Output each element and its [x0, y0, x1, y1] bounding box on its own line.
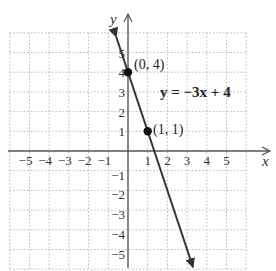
- y-tick-label: 3: [119, 85, 126, 100]
- x-tick-label: −5: [19, 153, 33, 168]
- y-tick-label: −3: [111, 207, 125, 222]
- y-tick-label: −1: [111, 168, 125, 183]
- x-tick-labels: −5−4−3−2−112345: [19, 153, 230, 168]
- x-tick-label: −4: [38, 153, 52, 168]
- point-label-1-1: (1, 1): [153, 122, 184, 138]
- y-axis-label: y: [108, 11, 117, 27]
- y-tick-label: −2: [111, 187, 125, 202]
- x-tick-label: 4: [204, 153, 211, 168]
- x-tick-label: −1: [97, 153, 111, 168]
- point-label-0-4: (0, 4): [134, 57, 165, 73]
- coordinate-plane: x y −5−4−3−2−112345 54321−1−2−3−4−5 (0, …: [0, 0, 276, 271]
- y-tick-labels: 54321−1−2−3−4−5: [111, 46, 125, 262]
- x-tick-label: 5: [223, 153, 230, 168]
- y-tick-label: 2: [119, 105, 126, 120]
- x-tick-label: 1: [144, 153, 151, 168]
- point-0-4: [124, 68, 132, 76]
- x-axis-label: x: [261, 153, 269, 169]
- y-tick-label: −4: [111, 227, 125, 242]
- x-tick-label: 3: [184, 153, 191, 168]
- y-tick-label: 1: [119, 124, 126, 139]
- y-tick-label: −5: [111, 247, 125, 262]
- point-1-1: [144, 127, 152, 135]
- x-tick-label: −3: [58, 153, 72, 168]
- x-tick-label: 2: [164, 153, 171, 168]
- x-tick-label: −2: [78, 153, 92, 168]
- equation-label: y = −3x + 4: [160, 84, 231, 100]
